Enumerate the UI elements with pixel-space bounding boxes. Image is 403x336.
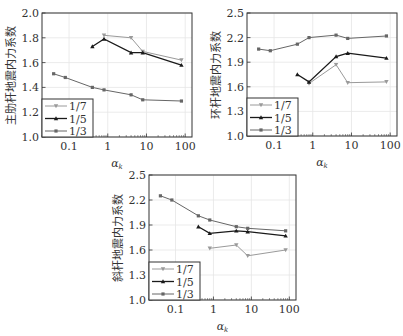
series-1-5 [196,224,288,237]
marker-square-icon [284,229,287,232]
series-1-3 [257,34,388,53]
x-tick-label: 100 [279,303,300,316]
x-tick-label: 100 [175,140,196,153]
y-tick-label: 1.6 [129,244,147,257]
x-tick-label: 10 [244,303,258,316]
x-tick-label: 0.1 [265,139,283,152]
y-tick-label: 2.5 [227,7,245,20]
y-tick-label: 2.2 [227,32,245,45]
y-tick-label: 1.0 [227,130,245,143]
legend-label: 1/3 [274,124,292,137]
x-tick-label: 1 [210,303,217,316]
y-tick-label: 1.3 [129,269,147,282]
x-tick-label: 10 [139,140,153,153]
y-tick-label: 2.2 [129,194,147,207]
legend: 1/71/51/3 [42,99,93,138]
legend-label: 1/3 [176,288,194,301]
marker-square-icon [346,37,349,40]
x-tick-label: 100 [380,139,401,152]
y-axis-label: 斜杆地震内力系数 [111,194,125,282]
legend: 1/71/51/3 [247,98,298,137]
x-axis-label: αk [316,156,328,170]
chart-diagonal: 0.11101001.01.31.61.92.22.5αk斜杆地震内力系数1/7… [111,169,300,334]
marker-square-icon [296,43,299,46]
series-1-5 [295,51,388,84]
marker-square-icon [246,227,249,230]
marker-square-icon [257,47,260,50]
marker-square-icon [259,128,262,131]
chart-ring: 0.11101001.01.31.61.92.22.5αk环杆地震内力系数1/7… [209,7,401,170]
y-tick-label: 1.0 [22,131,40,144]
marker-square-icon [197,214,200,217]
marker-square-icon [334,34,337,37]
x-tick-label: 0.1 [167,303,185,316]
marker-square-icon [159,194,162,197]
marker-square-icon [64,76,67,79]
y-tick-label: 1.4 [22,81,40,94]
y-tick-label: 1.8 [22,32,40,45]
legend-label: 1/7 [274,99,292,112]
y-tick-label: 1.9 [129,219,147,232]
x-axis-label: αk [217,320,229,334]
x-tick-label: 1 [104,140,111,153]
x-axis-label: αk [111,157,123,171]
legend-label: 1/5 [274,112,292,125]
marker-square-icon [170,198,173,201]
marker-square-icon [54,129,57,132]
marker-square-icon [235,225,238,228]
series-1-7 [307,63,389,86]
legend-label: 1/7 [69,100,87,113]
marker-square-icon [269,49,272,52]
marker-square-icon [180,99,183,102]
marker-triangle-up-icon [295,72,299,76]
marker-square-icon [208,218,211,221]
marker-square-icon [385,34,388,37]
legend-label: 1/5 [176,276,194,289]
x-tick-label: 0.1 [60,140,78,153]
legend-label: 1/3 [69,125,87,138]
y-tick-label: 1.2 [22,106,40,119]
y-tick-label: 1.0 [129,294,147,307]
y-axis-label: 主肋杆地震内力系数 [4,26,18,125]
y-tick-label: 1.9 [227,56,245,69]
marker-square-icon [91,86,94,89]
legend-label: 1/7 [176,263,194,276]
chart-main-rib: 0.11101001.01.21.41.61.82.0αk主肋杆地震内力系数1/… [4,7,196,171]
series-1-7 [208,243,288,258]
marker-square-icon [102,88,105,91]
x-tick-label: 10 [344,139,358,152]
y-tick-label: 2.5 [129,169,147,182]
legend-label: 1/5 [69,113,87,126]
legend: 1/71/51/3 [149,262,200,301]
y-axis-label: 环杆地震内力系数 [209,31,223,119]
y-tick-label: 1.3 [227,105,245,118]
y-tick-label: 1.6 [22,57,40,70]
y-tick-label: 2.0 [22,7,40,20]
figure-canvas: 0.11101001.01.21.41.61.82.0αk主肋杆地震内力系数1/… [0,0,403,336]
marker-square-icon [52,72,55,75]
y-tick-label: 1.6 [227,81,245,94]
marker-square-icon [161,292,164,295]
marker-square-icon [141,98,144,101]
marker-triangle-down-icon [179,58,183,62]
x-tick-label: 1 [309,139,316,152]
marker-square-icon [307,36,310,39]
marker-square-icon [129,93,132,96]
